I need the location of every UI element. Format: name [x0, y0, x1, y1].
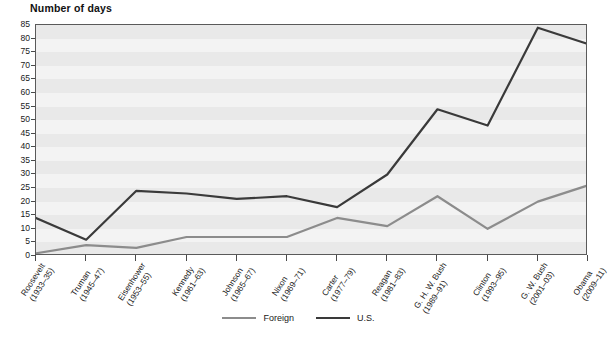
series-line-u-s: [36, 28, 587, 240]
x-axis-tick-label: G. W. Bush(2001–03): [519, 261, 558, 307]
chart-legend: ForeignU.S.: [0, 313, 597, 323]
plot-area: [35, 24, 587, 255]
y-axis-tick-label: 40: [6, 142, 30, 151]
x-axis-tick-label: G. H. W. Bush(1989–91): [413, 261, 458, 316]
y-axis-tick-label: 35: [6, 155, 30, 164]
legend-entry[interactable]: Foreign: [222, 313, 294, 323]
y-axis-title: Number of days: [30, 2, 112, 14]
legend-label: U.S.: [357, 313, 375, 323]
y-axis-tick-labels: 0510152025303540455055606570758085: [0, 24, 30, 255]
y-axis-tick-label: 45: [6, 128, 30, 137]
y-axis-tick-label: 55: [6, 101, 30, 110]
x-axis-tick-label: Kennedy(1961–63): [170, 261, 207, 303]
series-line-foreign: [36, 185, 587, 253]
x-axis-tick-label: Obama(2009–11): [572, 261, 608, 303]
x-axis-tick-label: Clinton(1993–95): [471, 261, 508, 303]
x-axis-tick-label: Carter(1977–79): [320, 261, 357, 303]
x-axis-tick-label: Johnson(1965–67): [220, 261, 257, 303]
x-axis-tick-label: Roosevelt(1933–35): [19, 261, 56, 303]
y-axis-tick-label: 85: [6, 20, 30, 29]
y-axis-tick-label: 75: [6, 47, 30, 56]
y-axis-tick-label: 0: [6, 251, 30, 260]
x-axis-tick-labels: Roosevelt(1933–35)Truman(1945–47)Eisenho…: [0, 261, 597, 316]
x-axis-tick-label: Reagan(1981–83): [371, 261, 408, 303]
y-axis-tick-label: 70: [6, 60, 30, 69]
y-axis-tick-label: 50: [6, 115, 30, 124]
y-axis-tick-label: 15: [6, 210, 30, 219]
x-axis-tick-label: Nixon(1969–71): [270, 261, 307, 303]
legend-line-swatch: [222, 317, 256, 320]
y-axis-tick-label: 80: [6, 33, 30, 42]
y-axis-tick-label: 30: [6, 169, 30, 178]
legend-entry[interactable]: U.S.: [316, 313, 375, 323]
y-axis-tick-label: 65: [6, 74, 30, 83]
y-axis-tick-label: 10: [6, 223, 30, 232]
legend-line-swatch: [316, 317, 350, 320]
x-axis-tick-label: Truman(1945–47): [70, 261, 107, 303]
legend-label: Foreign: [263, 313, 294, 323]
y-axis-tick-label: 20: [6, 196, 30, 205]
y-axis-tick-label: 25: [6, 183, 30, 192]
series-lines: [36, 25, 587, 255]
y-axis-tick-label: 5: [6, 237, 30, 246]
x-axis-tick-label: Eisenhower(1953–55): [117, 261, 157, 308]
y-axis-tick-label: 60: [6, 87, 30, 96]
